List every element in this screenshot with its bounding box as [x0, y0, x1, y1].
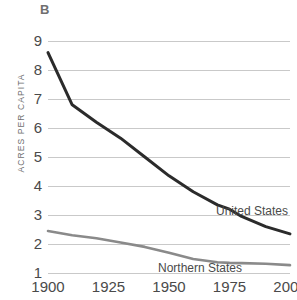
x-axis-tick-label: 2000 [267, 278, 297, 295]
y-axis-tick-label: 7 [26, 90, 42, 107]
x-axis-tick-label: 1900 [25, 278, 71, 295]
series-label-united-states: United States [216, 204, 288, 218]
panel-letter: B [40, 2, 50, 17]
y-axis-tick-label: 5 [26, 148, 42, 165]
y-axis-tick-label: 3 [26, 206, 42, 223]
y-axis-tick-label: 9 [26, 32, 42, 49]
y-axis-tick-label: 2 [26, 235, 42, 252]
x-axis-tick-label: 1950 [146, 278, 192, 295]
chart-figure: B ACRES PER CAPITA 123456789 19001925195… [0, 0, 297, 300]
y-axis-title: ACRES PER CAPITA [16, 58, 26, 188]
y-axis-tick-label: 4 [26, 177, 42, 194]
x-axis-tick-label: 1975 [207, 278, 253, 295]
y-axis-tick-label: 8 [26, 61, 42, 78]
series-label-northern-states: Northern States [158, 261, 242, 275]
series-lines [48, 41, 290, 273]
y-axis-tick-label: 6 [26, 119, 42, 136]
plot-area: United States Northern States [48, 41, 290, 273]
x-axis-tick-label: 1925 [86, 278, 132, 295]
